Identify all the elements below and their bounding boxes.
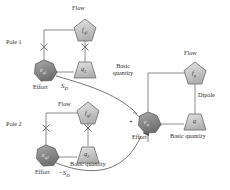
node-label-e-q: eq [144, 119, 149, 127]
diagram-svg [0, 0, 230, 190]
label-basic-quantity-dipole: Basic quantity [170, 133, 206, 140]
node-label-f-q: fq [192, 70, 196, 78]
label-flow-pole1: Flow [72, 5, 85, 12]
node-e-q[interactable] [139, 112, 162, 133]
node-label-f-q1: fq1 [82, 27, 88, 35]
node-label-q-1: q1 [81, 66, 86, 74]
label-flow-pole2: Flow [58, 101, 71, 108]
label-basic-quantity-pole1: Basic quantity [107, 62, 139, 76]
label-effort-dipole: Effort [132, 134, 147, 141]
label-plus-sign: + [129, 119, 133, 126]
label-flow-dipole: Flow [184, 50, 197, 57]
label-pole-2: Pole 2 [6, 121, 22, 128]
label-entropy-negative: −SD [58, 170, 70, 179]
label-dipole: Dipole [198, 92, 215, 99]
node-label-q-2: q2 [84, 151, 89, 159]
label-effort-pole2: Effort [35, 169, 50, 176]
figure-canvas: fq1 q1 eq1 fq2 q2 eq2 fq q eq Flow Flow … [0, 0, 230, 190]
node-label-e-q1: eq1 [40, 67, 47, 75]
label-pole-1: Pole 1 [6, 39, 22, 46]
label-entropy-positive: SD [61, 83, 68, 92]
label-effort-pole1: Effort [33, 84, 48, 91]
label-basic-quantity-pole2: Basic quantity [70, 161, 106, 168]
node-label-f-q2: fq2 [85, 110, 91, 118]
node-label-q: q [193, 118, 196, 126]
node-label-e-q2: eq2 [42, 152, 49, 160]
